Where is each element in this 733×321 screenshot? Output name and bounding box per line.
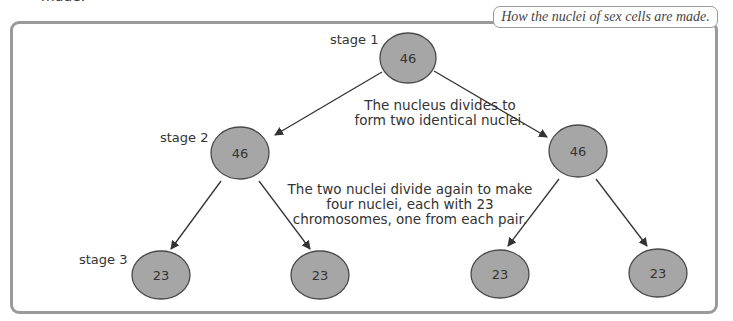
nucleus-stage3-3-count: 23 [470, 267, 530, 282]
nucleus-stage3-4-count: 23 [628, 266, 688, 281]
nucleus-stage3-2-count: 23 [290, 268, 350, 283]
caption-second-division: The two nuclei divide again to make four… [285, 182, 535, 227]
stage-2-label: stage 2 [160, 130, 209, 145]
nucleus-stage3-1-count: 23 [131, 268, 191, 283]
stage-1-label: stage 1 [330, 32, 379, 47]
caption-first-division-line-1: The nucleus divides to [340, 98, 540, 113]
caption-second-division-line-1: The two nuclei divide again to make [285, 182, 535, 197]
caption-first-division: The nucleus divides to form two identica… [340, 98, 540, 128]
nucleus-stage2-right-count: 46 [548, 144, 608, 159]
division-tree [0, 0, 733, 321]
nucleus-stage2-left-count: 46 [210, 146, 270, 161]
stage-3-label: stage 3 [79, 252, 128, 267]
arrow-s2l-to-s3-1 [171, 181, 221, 249]
arrow-s2r-to-s3-4 [596, 179, 647, 246]
caption-second-division-line-3: chromosomes, one from each pair. [285, 212, 535, 227]
caption-first-division-line-2: form two identical nuclei. [340, 113, 540, 128]
nucleus-stage1-count: 46 [378, 51, 438, 66]
caption-second-division-line-2: four nuclei, each with 23 [285, 197, 535, 212]
